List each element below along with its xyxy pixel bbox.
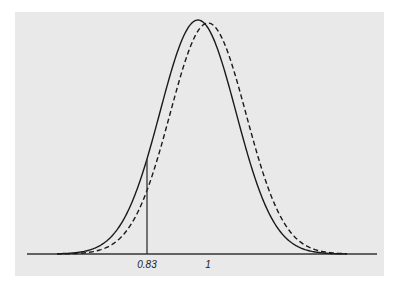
x-tick-label-1: 1 [205, 259, 211, 270]
plot-area [0, 0, 402, 288]
x-tick-label-0.83: 0.83 [137, 259, 156, 270]
solid-curve [57, 20, 347, 254]
dashed-curve [57, 23, 347, 254]
